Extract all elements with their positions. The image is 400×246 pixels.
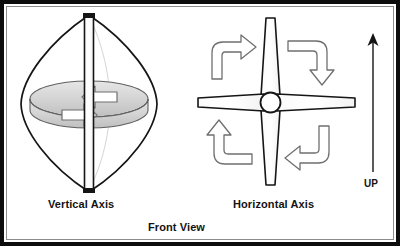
vertical-axis-turbine-group — [21, 13, 157, 193]
label-horizontal-axis: Horizontal Axis — [233, 198, 314, 210]
vawt-mast-bottom-cap — [83, 188, 95, 193]
label-up: UP — [364, 178, 378, 189]
hawt-rotation-arrow-bottom-left — [207, 120, 252, 164]
vawt-mast — [85, 16, 94, 191]
vawt-mast-top-cap — [83, 13, 95, 18]
hawt-rotation-arrow-top-right — [288, 41, 334, 85]
up-direction-marker — [368, 33, 379, 172]
label-vertical-axis: Vertical Axis — [48, 198, 114, 210]
hawt-blade-up — [261, 18, 280, 96]
label-front-view: Front View — [148, 221, 205, 233]
hawt-rotation-arrow-top-left — [212, 35, 256, 79]
hawt-hub — [261, 93, 281, 113]
hawt-blade-down — [261, 110, 280, 185]
hawt-blade-right — [277, 94, 355, 111]
diagram-screenshot: Vertical Axis Horizontal Axis Front View… — [0, 0, 400, 246]
hawt-blade-left — [198, 94, 264, 111]
hawt-rotation-arrow-bottom-right — [285, 126, 329, 170]
horizontal-axis-turbine-group — [198, 18, 355, 185]
